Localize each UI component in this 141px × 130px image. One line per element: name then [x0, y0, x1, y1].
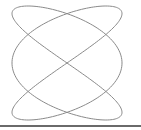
lissajous-figure	[0, 0, 141, 130]
lissajous-curve	[12, 6, 122, 120]
bottom-divider-line	[0, 125, 141, 127]
